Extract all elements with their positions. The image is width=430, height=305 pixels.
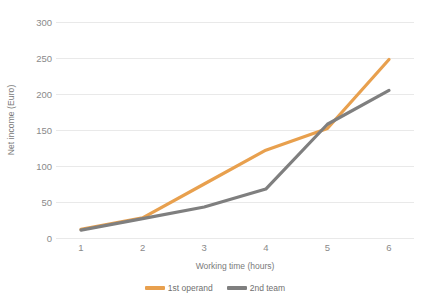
x-tick-label: 5 <box>325 242 330 253</box>
y-tick-label: 150 <box>18 125 56 136</box>
y-tick-label: 50 <box>18 197 56 208</box>
y-tick-label: 0 <box>18 233 56 244</box>
y-tick-label: 200 <box>18 89 56 100</box>
x-axis-title-label: Working time (hours) <box>196 261 275 271</box>
x-tick-label: 1 <box>78 242 83 253</box>
x-tick-label: 6 <box>386 242 391 253</box>
y-axis-title: Net income (Euro) <box>4 0 18 240</box>
y-tick-label: 100 <box>18 161 56 172</box>
legend-label: 1st operand <box>168 283 213 293</box>
legend-item[interactable]: 1st operand <box>145 283 213 293</box>
gridline <box>56 238 414 239</box>
x-axis-tick-labels: 123456 <box>56 242 414 258</box>
x-tick-label: 4 <box>263 242 268 253</box>
chart-legend: 1st operand2nd team <box>0 283 430 293</box>
y-tick-label: 250 <box>18 53 56 64</box>
y-axis-title-label: Net income (Euro) <box>6 85 16 156</box>
y-tick-label: 300 <box>18 17 56 28</box>
series-lines <box>56 22 414 238</box>
y-axis-tick-labels: 050100150200250300 <box>18 0 56 305</box>
legend-label: 2nd team <box>250 283 285 293</box>
legend-swatch-icon <box>227 286 247 290</box>
legend-swatch-icon <box>145 286 165 290</box>
series-line <box>81 59 389 229</box>
legend-item[interactable]: 2nd team <box>227 283 285 293</box>
plot-area <box>56 22 414 238</box>
line-chart: Net income (Euro) 050100150200250300 123… <box>0 0 430 305</box>
x-tick-label: 3 <box>202 242 207 253</box>
x-tick-label: 2 <box>140 242 145 253</box>
x-axis-title: Working time (hours) <box>56 261 414 271</box>
